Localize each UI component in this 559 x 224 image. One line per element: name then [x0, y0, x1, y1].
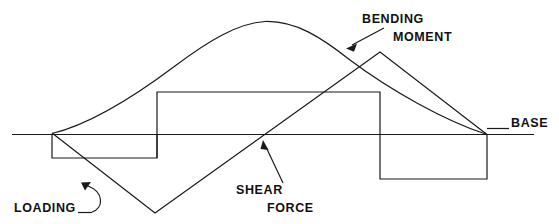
beam-diagram: BENDING MOMENT BASE SHEAR FORCE LOADING	[0, 0, 559, 224]
bending-moment-arrow-head	[346, 44, 357, 52]
label-bending-moment-line1: BENDING	[362, 13, 424, 26]
shear-force-arrow-shaft	[266, 147, 283, 183]
shear-force-arrow-head	[261, 140, 269, 150]
loading-block-left	[52, 134, 157, 158]
label-base: BASE	[511, 117, 548, 130]
label-bending-moment-line2: MOMENT	[393, 31, 452, 44]
loading-arrow-shaft	[88, 186, 101, 212]
label-loading: LOADING	[14, 202, 76, 215]
bending-moment-arrow-shaft	[352, 28, 384, 45]
loading-block-mid	[157, 92, 380, 158]
label-shear-force-line2: FORCE	[267, 202, 314, 215]
label-shear-force-line1: SHEAR	[236, 184, 283, 197]
loading-block-right	[380, 134, 487, 179]
